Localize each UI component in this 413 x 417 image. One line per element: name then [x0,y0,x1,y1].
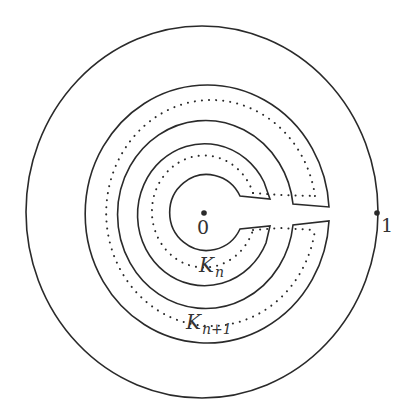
diagram-canvas [0,0,413,417]
ring-k-n-subscript: n [215,264,224,280]
ring-k-n-plus-1-subscript: n+1 [202,321,232,337]
ring-k-n-plus-1-name: K [186,310,201,334]
ring-k-n-label: Kn [199,253,224,277]
point-1-label: 1 [381,214,393,236]
ring-k-n-plus-1 [85,85,329,343]
point-1-marker [374,210,380,216]
origin-marker [201,210,207,216]
origin-label: 0 [197,216,209,238]
ring-k-n-plus-1-label: Kn+1 [186,310,232,334]
dotted-bridge-top [253,193,315,196]
dotted-bridge-bottom [253,228,315,230]
ring-k-n-name: K [199,253,214,277]
